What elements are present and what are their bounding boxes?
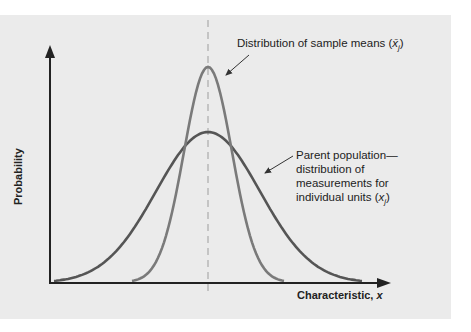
parent-pointer bbox=[265, 156, 293, 173]
parent-population-annotation: Parent population— distribution of measu… bbox=[296, 148, 398, 209]
y-axis-label: Probability bbox=[12, 148, 24, 205]
x-axis-variable: x bbox=[376, 289, 382, 301]
sample-means-annotation: Distribution of sample means (x̄j) bbox=[237, 36, 404, 55]
paren-close: ) bbox=[400, 37, 404, 49]
paren-close: ) bbox=[386, 191, 390, 203]
x-axis-label: Characteristic, x bbox=[297, 289, 383, 301]
parent-line-4: individual units (xj) bbox=[296, 190, 398, 209]
sample-means-pointer bbox=[226, 55, 249, 75]
x-axis-arrow-icon bbox=[377, 278, 391, 288]
parent-line-3: measurements for bbox=[296, 176, 398, 190]
x-axis-label-text: Characteristic, bbox=[297, 289, 376, 301]
parent-line-4-text: individual units ( bbox=[296, 191, 378, 203]
sample-means-text: Distribution of sample means ( bbox=[237, 37, 392, 49]
parent-line-1: Parent population— bbox=[296, 148, 398, 162]
y-axis-arrow-icon bbox=[45, 45, 55, 58]
parent-line-2: distribution of bbox=[296, 162, 398, 176]
